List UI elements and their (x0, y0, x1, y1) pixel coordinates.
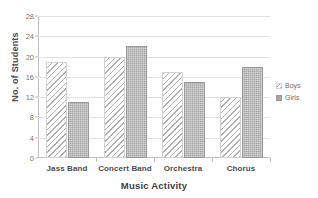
y-tick-mark (35, 117, 38, 118)
x-tick-label-1: Concert Band (98, 164, 152, 173)
y-tick-mark (35, 97, 38, 98)
y-tick-label: 8 (30, 113, 34, 122)
x-tick-label-0: Jass Band (47, 164, 88, 173)
legend-swatch-girls (276, 95, 282, 101)
bar-girls-3 (242, 67, 263, 158)
gridline (38, 36, 270, 37)
legend-label-boys: Boys (285, 82, 301, 89)
bar-chart: No. of Students 0481216202428Jass BandCo… (0, 0, 318, 198)
legend-item-girls[interactable]: Girls (276, 92, 318, 103)
y-tick-mark (35, 16, 38, 17)
legend-label-girls: Girls (285, 94, 299, 101)
y-tick-label: 4 (30, 133, 34, 142)
gridline (38, 57, 270, 58)
x-tick-mark (270, 158, 271, 162)
legend-swatch-boys (276, 83, 282, 89)
y-axis-title: No. of Students (10, 19, 20, 115)
y-tick-mark (35, 56, 38, 57)
x-tick-label-2: Orchestra (164, 164, 203, 173)
bar-boys-1 (104, 57, 125, 158)
y-tick-mark (35, 158, 38, 159)
x-tick-label-3: Chorus (227, 164, 256, 173)
bar-girls-2 (184, 82, 205, 158)
y-tick-label: 28 (26, 12, 34, 21)
y-axis-line (38, 16, 39, 158)
y-tick-label: 0 (30, 154, 34, 163)
x-axis-title: Music Activity (38, 180, 270, 191)
gridline (38, 77, 270, 78)
x-tick-mark (212, 158, 213, 162)
bar-boys-0 (46, 62, 67, 158)
y-tick-label: 16 (26, 72, 34, 81)
x-tick-mark (154, 158, 155, 162)
bar-girls-0 (68, 102, 89, 158)
chart-legend: BoysGirls (276, 80, 318, 104)
plot-area: 0481216202428Jass BandConcert BandOrches… (38, 16, 270, 158)
y-tick-label: 12 (26, 93, 34, 102)
bar-boys-3 (220, 97, 241, 158)
gridline (38, 16, 270, 17)
y-tick-label: 20 (26, 52, 34, 61)
bar-boys-2 (162, 72, 183, 158)
x-tick-mark (96, 158, 97, 162)
y-tick-mark (35, 36, 38, 37)
y-tick-mark (35, 76, 38, 77)
y-tick-mark (35, 137, 38, 138)
chart-title-clipped (90, 0, 240, 2)
y-tick-label: 24 (26, 32, 34, 41)
bar-girls-1 (126, 46, 147, 158)
legend-item-boys[interactable]: Boys (276, 80, 318, 91)
